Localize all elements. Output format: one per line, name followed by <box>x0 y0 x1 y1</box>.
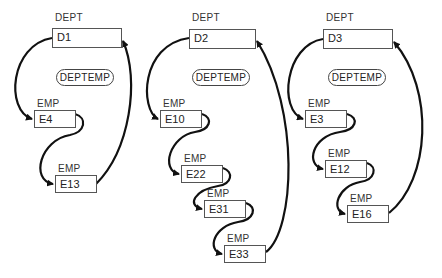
emp-record-e4[interactable]: E4 <box>34 110 76 128</box>
emp-record-e33[interactable]: E33 <box>224 245 266 263</box>
dept-record-d1[interactable]: D1 <box>52 28 122 48</box>
dept-type-label: DEPT <box>192 12 220 23</box>
emp-type-label: EMP <box>58 163 81 174</box>
emp-record-e3[interactable]: E3 <box>305 110 347 128</box>
emp-record-e22[interactable]: E22 <box>181 165 223 183</box>
emp-record-e31[interactable]: E31 <box>204 200 246 218</box>
emp-type-label: EMP <box>350 193 373 204</box>
emp-record-e10[interactable]: E10 <box>160 110 202 128</box>
emp-type-label: EMP <box>227 233 250 244</box>
emp-record-e16[interactable]: E16 <box>347 205 389 223</box>
set-occurrence-diagram: DEPT D1 DEPTEMP EMP E4 EMP E13 DEPT D2 D… <box>0 0 442 278</box>
emp-type-label: EMP <box>328 148 351 159</box>
set-name-pill: DEPTEMP <box>192 69 250 86</box>
emp-record-e13[interactable]: E13 <box>55 175 97 193</box>
link-e16-d3 <box>389 42 422 213</box>
emp-type-label: EMP <box>37 98 60 109</box>
dept-record-d2[interactable]: D2 <box>189 29 256 49</box>
emp-type-label: EMP <box>207 188 230 199</box>
dept-type-label: DEPT <box>55 12 83 23</box>
link-e13-d1 <box>96 41 131 184</box>
emp-type-label: EMP <box>163 98 186 109</box>
emp-record-e12[interactable]: E12 <box>325 160 367 178</box>
dept-type-label: DEPT <box>326 12 354 23</box>
emp-type-label: EMP <box>308 98 331 109</box>
dept-record-d3[interactable]: D3 <box>323 29 393 49</box>
link-e33-d2 <box>257 41 289 252</box>
set-name-pill: DEPTEMP <box>56 69 114 86</box>
set-name-pill: DEPTEMP <box>328 69 386 86</box>
emp-type-label: EMP <box>184 153 207 164</box>
